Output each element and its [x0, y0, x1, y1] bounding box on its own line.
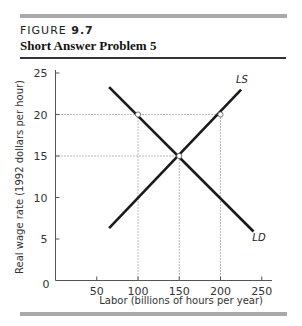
x-axis-title: Labor (billions of hours per year)	[99, 295, 263, 306]
y-tick-label: 15	[34, 150, 48, 163]
ld-curve-label: LD	[252, 232, 266, 243]
ls-curve	[109, 90, 241, 229]
bottom-decorative-bar	[20, 312, 287, 316]
marked-point	[177, 153, 182, 158]
y-tick-label: 5	[41, 233, 48, 246]
y-axis-title: Real wage rate (1992 dollars per hour)	[14, 80, 25, 274]
ls-curve-label: LS	[236, 74, 249, 85]
y-tick-label: 20	[34, 109, 48, 122]
marked-point	[135, 112, 140, 117]
curves	[109, 87, 253, 231]
chart: 50100150200250510152025 0 Labor (billion…	[0, 0, 302, 326]
marked-point	[218, 112, 223, 117]
origin-label: 0	[43, 278, 50, 291]
ld-curve	[109, 87, 253, 231]
y-tick-label: 10	[34, 192, 48, 205]
y-tick-label: 25	[34, 67, 48, 80]
marked-points	[135, 112, 223, 159]
